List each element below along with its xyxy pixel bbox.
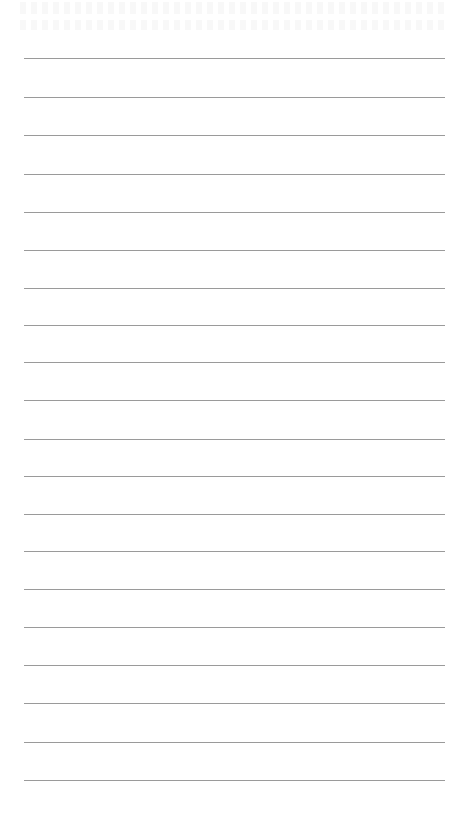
ruled-line — [24, 400, 445, 401]
ruled-line — [24, 212, 445, 213]
ruled-line — [24, 250, 445, 251]
ruled-line — [24, 362, 445, 363]
ruled-line — [24, 135, 445, 136]
faint-bleed-through-marks — [20, 2, 446, 42]
ruled-line — [24, 58, 445, 59]
ruled-line — [24, 476, 445, 477]
ruled-line — [24, 551, 445, 552]
ruled-line — [24, 325, 445, 326]
ruled-line — [24, 703, 445, 704]
ruled-line — [24, 780, 445, 781]
ruled-line — [24, 514, 445, 515]
ruled-line — [24, 589, 445, 590]
ruled-line — [24, 97, 445, 98]
ruled-line — [24, 288, 445, 289]
ruled-line — [24, 174, 445, 175]
ruled-line — [24, 627, 445, 628]
lined-paper-page — [0, 0, 466, 825]
ruled-line — [24, 665, 445, 666]
ruled-line — [24, 439, 445, 440]
ruled-line — [24, 742, 445, 743]
